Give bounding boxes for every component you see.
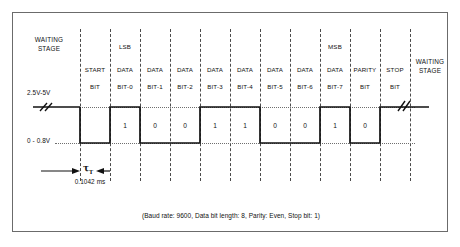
bit-value-data-bit-3: 1 [200, 122, 230, 129]
tau-duration: 0.1042 ms [55, 178, 125, 185]
bit-value-data-bit-6: 0 [290, 122, 320, 129]
tau-arrow-left-head [72, 168, 80, 174]
timing-diagram-figure: WAITING STAGE LSB MSB START BIT DATA BIT… [12, 12, 448, 232]
bit-value-data-bit-7: 1 [320, 122, 350, 129]
bit-value-data-bit-5: 0 [260, 122, 290, 129]
diagram-stage: WAITING STAGE LSB MSB START BIT DATA BIT… [13, 13, 449, 233]
bit-value-data-bit-0: 1 [110, 122, 140, 129]
tau-arrow-right-head [96, 168, 104, 174]
bit-value-data-bit-2: 0 [170, 122, 200, 129]
tau-symbol-subscript: T [89, 169, 93, 175]
tau-symbol: τT [83, 163, 93, 175]
figure-caption: (Baud rate: 9600, Data bit length: 8, Pa… [13, 212, 449, 219]
bit-value-data-bit-4: 1 [230, 122, 260, 129]
bit-value-data-bit-1: 0 [140, 122, 170, 129]
bit-value-parity-bit: 0 [350, 122, 380, 129]
